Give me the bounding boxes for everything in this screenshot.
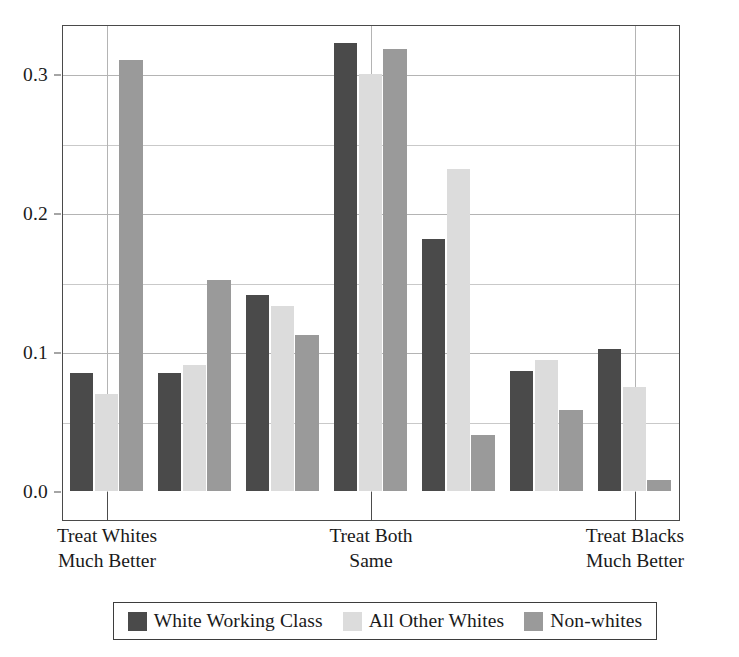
y-axis-tick-label: 0.2: [23, 204, 48, 224]
x-axis-category-label: Treat BlacksMuch Better: [586, 523, 684, 573]
legend-item-label: White Working Class: [154, 611, 323, 631]
legend-swatch-icon: [128, 612, 147, 631]
bar: [422, 239, 446, 491]
x-axis-tick-mark: [635, 492, 636, 520]
legend-item[interactable]: White Working Class: [128, 611, 323, 631]
legend-swatch-icon: [343, 612, 362, 631]
x-axis-category-label-line1: Treat Blacks: [586, 523, 684, 548]
bar: [207, 280, 231, 491]
bar: [119, 60, 143, 491]
x-axis-category-label: Treat BothSame: [329, 523, 412, 573]
x-axis-tick-mark: [107, 492, 108, 520]
bar: [447, 169, 471, 491]
x-axis-category-label-line2: Same: [329, 548, 412, 573]
x-axis-category-label-line2: Much Better: [57, 548, 157, 573]
x-axis-category-label-line1: Treat Both: [329, 523, 412, 548]
bar: [334, 43, 358, 491]
bar: [271, 306, 295, 491]
y-axis-tick-mark: [54, 492, 61, 493]
bar-chart-figure: 0.00.10.20.3 Treat WhitesMuch BetterTrea…: [0, 0, 739, 657]
legend-swatch-icon: [524, 612, 543, 631]
y-axis-tick-label: 0.0: [23, 482, 48, 502]
legend-item[interactable]: Non-whites: [524, 611, 642, 631]
x-axis-category-label-line2: Much Better: [586, 548, 684, 573]
y-axis-tick-mark: [54, 75, 61, 76]
x-axis: Treat WhitesMuch BetterTreat BothSameTre…: [62, 467, 680, 527]
y-axis-tick-label: 0.3: [23, 65, 48, 85]
x-axis-category-label: Treat WhitesMuch Better: [57, 523, 157, 573]
bars-layer: [63, 26, 679, 520]
legend-item-label: Non-whites: [550, 611, 642, 631]
x-axis-category-label-line1: Treat Whites: [57, 523, 157, 548]
y-axis: 0.00.10.20.3: [0, 0, 58, 657]
y-axis-tick-label: 0.1: [23, 343, 48, 363]
bar: [359, 74, 383, 491]
chart-legend: White Working ClassAll Other WhitesNon-w…: [113, 602, 657, 640]
y-axis-tick-mark: [54, 214, 61, 215]
bar: [246, 295, 270, 491]
legend-item[interactable]: All Other Whites: [343, 611, 505, 631]
y-axis-tick-mark: [54, 353, 61, 354]
legend-item-label: All Other Whites: [369, 611, 505, 631]
x-axis-tick-mark: [371, 492, 372, 520]
plot-inner: [63, 26, 679, 520]
bar: [383, 49, 407, 491]
plot-area: [62, 25, 680, 521]
